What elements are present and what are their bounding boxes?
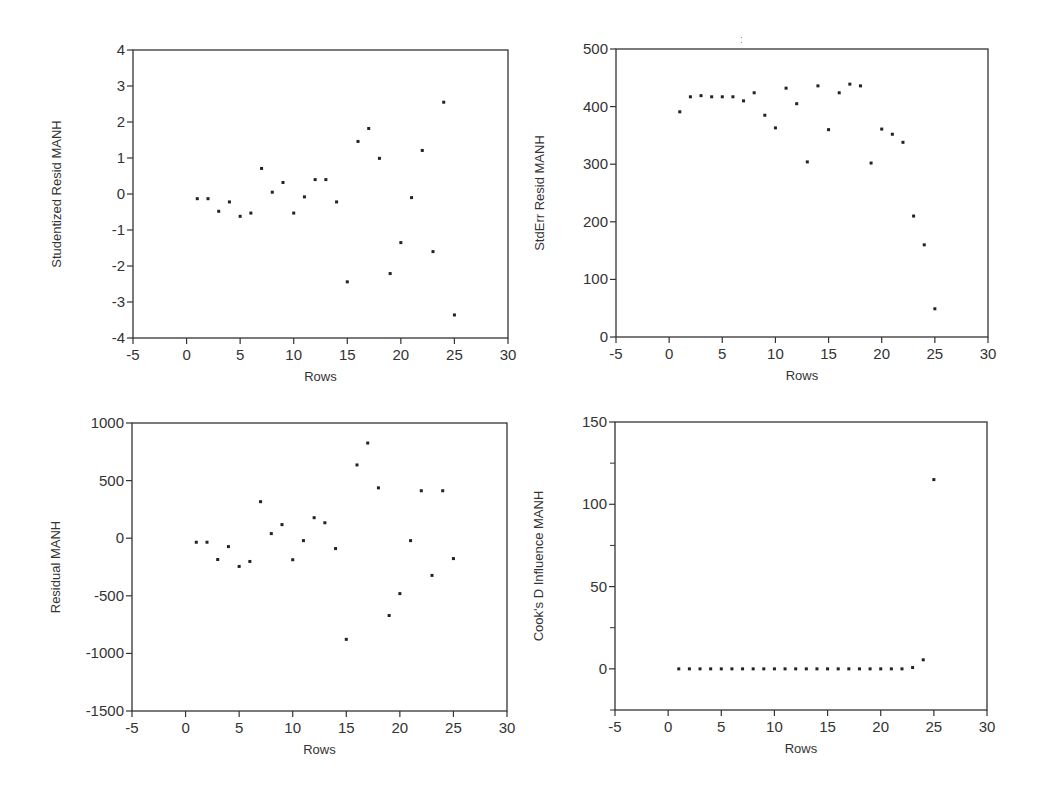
- chart-studentized-resid: -5051015202530-4-3-2-101234RowsStudentiz…: [49, 41, 516, 384]
- data-point: [271, 191, 274, 194]
- data-point: [794, 667, 797, 670]
- data-point: [292, 212, 295, 215]
- data-point: [689, 95, 692, 98]
- x-tick-label: 30: [500, 346, 517, 363]
- y-axis-label: Cook's D Influence MANH: [531, 491, 546, 642]
- data-point: [196, 197, 199, 200]
- data-point: [700, 94, 703, 97]
- data-point: [837, 667, 840, 670]
- data-point: [302, 539, 305, 542]
- data-point: [410, 196, 413, 199]
- x-tick-label: 15: [819, 718, 836, 735]
- data-point: [795, 102, 798, 105]
- y-tick-label: -3: [112, 293, 125, 310]
- y-tick-label: 0: [600, 328, 608, 345]
- data-point: [922, 658, 925, 661]
- x-tick-label: 10: [766, 718, 783, 735]
- data-point: [785, 87, 788, 90]
- data-point: [281, 523, 284, 526]
- data-point: [677, 667, 680, 670]
- data-point: [806, 160, 809, 163]
- data-point: [442, 101, 445, 104]
- x-tick-label: 25: [927, 345, 944, 362]
- y-tick-label: 300: [583, 155, 608, 172]
- data-point: [805, 667, 808, 670]
- y-tick-label: -1: [112, 221, 125, 238]
- data-point: [731, 95, 734, 98]
- x-tick-label: -5: [126, 346, 139, 363]
- data-point: [869, 667, 872, 670]
- data-point: [678, 110, 681, 113]
- plot-canvas: -5051015202530-4-3-2-101234RowsStudentiz…: [0, 0, 1037, 797]
- x-tick-label: 25: [445, 719, 462, 736]
- y-tick-label: -2: [112, 257, 125, 274]
- data-point: [206, 541, 209, 544]
- x-tick-label: 0: [665, 345, 673, 362]
- x-tick-label: 30: [499, 719, 516, 736]
- y-tick-label: -1000: [86, 644, 124, 661]
- artifact-mark: [741, 42, 742, 43]
- artifact-mark: [741, 37, 742, 38]
- data-point: [688, 667, 691, 670]
- x-tick-label: 25: [926, 718, 943, 735]
- data-point: [228, 200, 231, 203]
- data-point: [249, 212, 252, 215]
- data-point: [721, 95, 724, 98]
- data-point: [216, 558, 219, 561]
- x-tick-label: 20: [392, 719, 409, 736]
- y-tick-label: 500: [99, 472, 124, 489]
- chart-studentized-resid: -5051015202530-4-3-2-101234RowsStudentiz…: [0, 0, 1037, 797]
- data-point: [409, 539, 412, 542]
- data-point: [901, 141, 904, 144]
- y-tick-label: -1500: [86, 702, 124, 719]
- data-point: [227, 545, 230, 548]
- x-tick-label: 10: [767, 345, 784, 362]
- data-point: [900, 667, 903, 670]
- data-point: [282, 181, 285, 184]
- data-point: [323, 521, 326, 524]
- data-point: [912, 215, 915, 218]
- data-point: [248, 560, 251, 563]
- y-tick-label: 3: [117, 77, 125, 94]
- data-point: [932, 478, 935, 481]
- x-tick-label: 20: [873, 345, 890, 362]
- data-point: [195, 541, 198, 544]
- data-point: [709, 667, 712, 670]
- data-point: [838, 91, 841, 94]
- data-point: [720, 667, 723, 670]
- y-tick-label: 0: [599, 660, 607, 677]
- y-tick-label: 50: [590, 578, 607, 595]
- data-point: [441, 489, 444, 492]
- data-point: [431, 574, 434, 577]
- chart-stderr-resid: -50510152025300100200300400500RowsStdErr…: [532, 40, 996, 383]
- data-point: [890, 667, 893, 670]
- y-tick-label: -500: [94, 587, 124, 604]
- data-point: [378, 157, 381, 160]
- x-axis-label: Rows: [304, 369, 337, 384]
- y-tick-label: 1: [117, 149, 125, 166]
- data-point: [356, 463, 359, 466]
- data-point: [399, 241, 402, 244]
- data-point: [741, 667, 744, 670]
- data-point: [389, 272, 392, 275]
- data-point: [346, 280, 349, 283]
- data-point: [313, 516, 316, 519]
- x-tick-label: 25: [446, 346, 463, 363]
- x-tick-label: 20: [872, 718, 889, 735]
- x-tick-label: 10: [285, 346, 302, 363]
- plot-frame: [616, 49, 988, 337]
- data-point: [815, 667, 818, 670]
- y-tick-label: 0: [117, 185, 125, 202]
- data-point: [260, 167, 263, 170]
- data-point: [784, 667, 787, 670]
- data-point: [453, 313, 456, 316]
- y-tick-label: 1000: [91, 414, 124, 431]
- y-tick-label: 500: [583, 40, 608, 57]
- x-tick-label: 15: [820, 345, 837, 362]
- y-tick-label: 2: [117, 113, 125, 130]
- x-tick-label: 5: [235, 719, 243, 736]
- y-axis-label: Studentized Resid MANH: [49, 120, 64, 267]
- y-tick-label: 100: [582, 495, 607, 512]
- x-tick-label: 5: [717, 718, 725, 735]
- x-tick-label: -5: [608, 718, 621, 735]
